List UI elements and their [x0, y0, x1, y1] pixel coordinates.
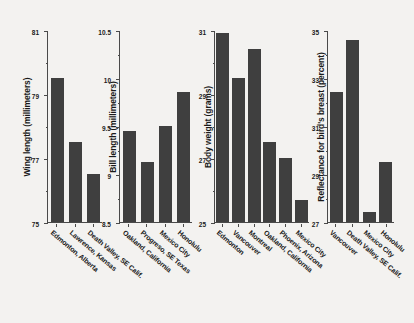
x-tick — [335, 224, 336, 227]
y-tick-label: 31 — [312, 125, 319, 132]
y-tick-label: 29 — [312, 173, 319, 180]
x-tick — [222, 224, 223, 227]
y-tick-label: 35 — [312, 29, 319, 36]
bar-series — [48, 31, 102, 222]
bar[interactable] — [330, 92, 343, 222]
y-tick-label: 27 — [312, 221, 319, 228]
bar[interactable] — [279, 158, 292, 222]
bar[interactable] — [177, 92, 190, 222]
x-tick — [56, 224, 57, 227]
y-tick-label: 8.5 — [102, 221, 111, 228]
x-tick — [183, 224, 184, 227]
y-tick: 25 — [211, 223, 215, 224]
y-tick: 75 — [44, 223, 48, 224]
bar-series — [328, 31, 394, 222]
bar-chart-figure: Wing length (millimeters)75777981Edmonto… — [0, 0, 414, 323]
y-tick-label: 77 — [32, 157, 39, 164]
x-tick — [352, 224, 353, 227]
y-tick-label: 33 — [312, 77, 319, 84]
bar[interactable] — [248, 49, 261, 222]
plot-area: 25272931 — [214, 31, 309, 223]
x-tick — [386, 224, 387, 227]
y-axis-title: Wing length (millimeters) — [22, 31, 32, 223]
y-tick-label: 31 — [199, 29, 206, 36]
y-tick-label: 25 — [199, 221, 206, 228]
bar-series — [215, 31, 309, 222]
bar[interactable] — [216, 33, 229, 222]
x-tick — [254, 224, 255, 227]
plot-area: 2729313335 — [327, 31, 394, 223]
bar[interactable] — [159, 126, 172, 222]
y-tick-label: 9 — [107, 173, 111, 180]
bar[interactable] — [263, 142, 276, 222]
bar[interactable] — [295, 200, 308, 222]
y-tick-label: 79 — [32, 93, 39, 100]
y-tick-label: 10 — [104, 77, 111, 84]
x-tick — [128, 224, 129, 227]
bar[interactable] — [141, 162, 154, 222]
x-tick — [301, 224, 302, 227]
y-tick-label: 27 — [199, 157, 206, 164]
x-tick — [165, 224, 166, 227]
x-tick — [269, 224, 270, 227]
y-tick-label: 75 — [32, 221, 39, 228]
y-axis-title: Body weight (grams) — [203, 31, 213, 223]
x-tick — [75, 224, 76, 227]
y-tick-label: 29 — [199, 93, 206, 100]
y-tick: 27 — [324, 223, 328, 224]
x-tick — [369, 224, 370, 227]
y-tick: 8.5 — [116, 223, 120, 224]
plot-area: 75777981 — [47, 31, 102, 223]
bar[interactable] — [379, 162, 392, 222]
bar[interactable] — [51, 78, 64, 222]
bar[interactable] — [232, 78, 245, 222]
bar[interactable] — [123, 131, 136, 222]
bar[interactable] — [346, 40, 359, 222]
x-tick — [238, 224, 239, 227]
y-tick-label: 10.5 — [98, 29, 111, 36]
y-tick-label: 81 — [32, 29, 39, 36]
x-tick — [93, 224, 94, 227]
bar[interactable] — [87, 174, 100, 222]
x-tick — [285, 224, 286, 227]
bar-series — [120, 31, 192, 222]
bar[interactable] — [69, 142, 82, 222]
y-tick-label: 9.5 — [102, 125, 111, 132]
x-tick — [146, 224, 147, 227]
plot-area: 8.599.51010.5 — [119, 31, 192, 223]
bar[interactable] — [363, 212, 376, 222]
